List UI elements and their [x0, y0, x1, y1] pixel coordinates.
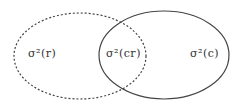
label-sigma-r: σ²(r) — [28, 47, 56, 60]
label-sigma-cr: σ²(cr) — [106, 47, 141, 60]
label-sigma-c: σ²(c) — [190, 47, 219, 60]
